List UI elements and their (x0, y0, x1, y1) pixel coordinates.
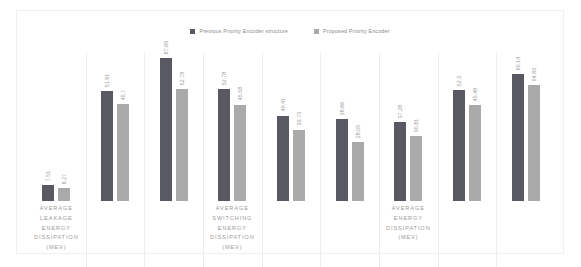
bar-group: 7.516.27 (27, 53, 86, 201)
bar-rect[interactable] (352, 142, 364, 201)
category-label-line: DISSIPATION (379, 224, 438, 234)
bar-group: 51.9145.7 (86, 53, 145, 201)
bar-value-label: 30.81 (415, 118, 420, 131)
plot-area: 7.516.2751.9145.767.6952.7852.7845.5840.… (27, 53, 555, 201)
bar-group: 52.7845.58 (203, 53, 262, 201)
bar-value-label: 52.78 (223, 72, 228, 85)
bar-proposed[interactable]: 52.78 (176, 53, 188, 201)
bar-previous[interactable]: 52.3 (453, 53, 465, 201)
bar-group: 38.6628.05 (320, 53, 379, 201)
legend-label-proposed: Proposed Priority Encoder (323, 29, 390, 34)
bar-rect[interactable] (394, 122, 406, 201)
bar-rect[interactable] (42, 185, 54, 201)
bar-rect[interactable] (453, 90, 465, 201)
bar-value-label: 37.28 (399, 105, 404, 118)
legend-item-previous[interactable]: Previous Priority Encoder structure (190, 29, 288, 34)
bar-previous[interactable]: 51.91 (101, 53, 113, 201)
category-label-line: AVERAGE (379, 204, 438, 214)
bar-previous[interactable]: 52.78 (218, 53, 230, 201)
bar-proposed[interactable]: 33.73 (293, 53, 305, 201)
category-label-line: AVERAGE (203, 204, 262, 214)
category-label-line: SWITCHING (203, 214, 262, 224)
category-label-line: DISSIPATION (203, 233, 262, 243)
bar-rect[interactable] (234, 105, 246, 201)
bar-group: 67.6952.78 (144, 53, 203, 201)
bar-previous[interactable]: 7.51 (42, 53, 54, 201)
category-label-line: (MEV) (379, 233, 438, 243)
legend-swatch-previous (190, 29, 195, 34)
bar-rect[interactable] (277, 116, 289, 201)
bar-group: 52.345.49 (438, 53, 497, 201)
bar-proposed[interactable]: 30.81 (410, 53, 422, 201)
category-label-line: (MEV) (203, 243, 262, 253)
bar-proposed[interactable]: 28.05 (352, 53, 364, 201)
bar-value-label: 33.73 (297, 112, 302, 125)
bar-proposed[interactable]: 6.27 (58, 53, 70, 201)
category-label-line: DISSIPATION (27, 233, 86, 243)
bar-proposed[interactable]: 45.58 (234, 53, 246, 201)
bar-previous[interactable]: 40.41 (277, 53, 289, 201)
bar-previous[interactable]: 37.28 (394, 53, 406, 201)
bar-rect[interactable] (101, 91, 113, 201)
category-label-line: LEAKAGE (27, 214, 86, 224)
bar-value-label: 51.91 (105, 74, 110, 87)
bar-rect[interactable] (512, 74, 524, 201)
bar-value-label: 7.51 (47, 171, 52, 182)
bar-group: 37.2830.81 (379, 53, 438, 201)
bar-rect[interactable] (58, 188, 70, 201)
bar-rect[interactable] (117, 104, 129, 201)
bar-group: 60.1454.83 (496, 53, 555, 201)
bar-value-label: 67.69 (164, 40, 169, 53)
bar-rect[interactable] (410, 136, 422, 201)
category-label: AVERAGELEAKAGEENERGYDISSIPATION(MEV) (27, 204, 86, 253)
category-label-line: AVERAGE (27, 204, 86, 214)
bar-value-label: 52.78 (180, 72, 185, 85)
legend-swatch-proposed (314, 29, 319, 34)
category-label-line: (MEV) (27, 243, 86, 253)
bar-rect[interactable] (336, 119, 348, 201)
bar-value-label: 28.05 (356, 124, 361, 137)
bar-previous[interactable]: 60.14 (512, 53, 524, 201)
bar-rect[interactable] (293, 130, 305, 201)
chart-frame: Previous Priority Encoder structure Prop… (16, 10, 564, 254)
category-axis: AVERAGELEAKAGEENERGYDISSIPATION(MEV)AVER… (27, 204, 555, 264)
category-label-line: ENERGY (203, 224, 262, 234)
bar-rect[interactable] (528, 85, 540, 201)
bar-rect[interactable] (176, 89, 188, 201)
bar-group: 40.4133.73 (262, 53, 321, 201)
bar-value-label: 45.49 (473, 87, 478, 100)
bar-value-label: 54.83 (532, 68, 537, 81)
bar-value-label: 6.27 (63, 173, 68, 184)
bar-value-label: 38.66 (340, 102, 345, 115)
bar-proposed[interactable]: 54.83 (528, 53, 540, 201)
bar-value-label: 52.3 (457, 76, 462, 87)
legend-item-proposed[interactable]: Proposed Priority Encoder (314, 29, 390, 34)
bar-rect[interactable] (469, 105, 481, 201)
bar-rect[interactable] (218, 89, 230, 201)
bar-previous[interactable]: 38.66 (336, 53, 348, 201)
bar-rect[interactable] (160, 58, 172, 201)
bar-proposed[interactable]: 45.49 (469, 53, 481, 201)
category-label-line: ENERGY (379, 214, 438, 224)
category-label: AVERAGESWITCHINGENERGYDISSIPATION(MEV) (203, 204, 262, 253)
bar-previous[interactable]: 67.69 (160, 53, 172, 201)
bar-value-label: 60.14 (516, 56, 521, 69)
bar-value-label: 40.41 (281, 98, 286, 111)
legend-label-previous: Previous Priority Encoder structure (199, 29, 288, 34)
category-label: AVERAGEENERGYDISSIPATION(MEV) (379, 204, 438, 243)
bar-proposed[interactable]: 45.7 (117, 53, 129, 201)
chart-legend: Previous Priority Encoder structure Prop… (17, 29, 563, 34)
bar-value-label: 45.7 (121, 90, 126, 101)
bar-value-label: 45.58 (239, 87, 244, 100)
category-label-line: ENERGY (27, 224, 86, 234)
